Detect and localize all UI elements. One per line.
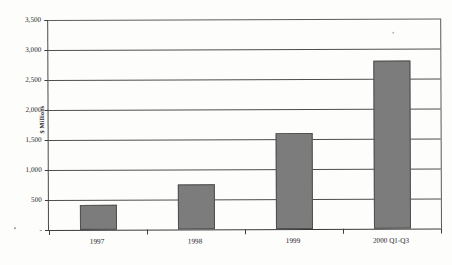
- x-axis-tick-mark: [245, 229, 246, 234]
- x-axis-tick-mark: [147, 230, 148, 235]
- y-axis-tick-label: 2,000: [8, 106, 42, 114]
- plot-area: [47, 18, 442, 230]
- x-axis-tick-mark: [343, 229, 344, 234]
- y-axis-tick-label: 2,500: [7, 76, 41, 84]
- bar-chart: $ Millions -5001,0001,5002,0002,5003,000…: [0, 0, 452, 265]
- y-axis-tick-mark: [45, 200, 49, 201]
- bar: [373, 61, 411, 229]
- bar: [79, 205, 116, 230]
- y-axis-tick-mark: [45, 140, 49, 141]
- scan-artifact-icon: [392, 32, 394, 34]
- x-axis-tick-label: 1999: [253, 237, 333, 245]
- x-axis-tick-label: 1998: [155, 237, 235, 245]
- y-axis-tick-labels: -5001,0001,5002,0002,5003,0003,500: [7, 0, 42, 265]
- x-axis-tick-label: 1997: [57, 238, 137, 246]
- chart-tilt-wrapper: $ Millions -5001,0001,5002,0002,5003,000…: [0, 0, 452, 265]
- y-axis-tick-label: 1,500: [8, 136, 42, 144]
- x-axis-tick-mark: [441, 228, 442, 233]
- y-axis-tick-mark: [45, 170, 49, 171]
- x-axis-tick-label: 2000 Q1-Q3: [351, 237, 431, 245]
- x-axis-tick-mark: [49, 230, 50, 235]
- gridline: [48, 48, 440, 51]
- y-axis-tick-mark: [44, 20, 48, 21]
- bar: [275, 133, 312, 229]
- y-axis-tick-mark: [44, 80, 48, 81]
- gridline: [48, 18, 440, 21]
- y-axis-tick-mark: [44, 50, 48, 51]
- scan-artifact-2-icon: [14, 227, 16, 229]
- y-axis-tick-label: 1,000: [8, 166, 42, 174]
- bar: [177, 184, 214, 229]
- y-axis-tick-label: 3,000: [7, 46, 41, 54]
- y-axis-tick-label: 500: [8, 196, 42, 204]
- y-axis-tick-mark: [45, 110, 49, 111]
- y-axis-tick-label: 3,500: [7, 16, 41, 24]
